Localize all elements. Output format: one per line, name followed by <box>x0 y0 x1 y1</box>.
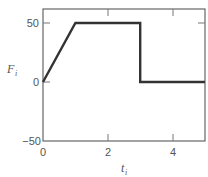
x-tick-label-0: 0 <box>40 146 46 158</box>
x-tick-label-2: 2 <box>105 146 111 158</box>
y-tick-label-0: 0 <box>33 76 39 88</box>
svg-text:i: i <box>125 168 127 177</box>
force-series-line <box>43 23 205 82</box>
chart: 50 0 −50 0 2 4 F i t i <box>0 0 208 177</box>
x-axis-label: t i <box>121 161 127 177</box>
x-tick-label-4: 4 <box>170 146 176 158</box>
svg-text:F: F <box>6 62 15 76</box>
svg-text:i: i <box>15 69 17 78</box>
plot-frame <box>43 9 205 141</box>
y-tick-label-neg50: −50 <box>22 135 41 147</box>
y-ticks <box>43 23 205 82</box>
y-tick-label-50: 50 <box>27 17 39 29</box>
y-axis-label: F i <box>6 62 17 78</box>
